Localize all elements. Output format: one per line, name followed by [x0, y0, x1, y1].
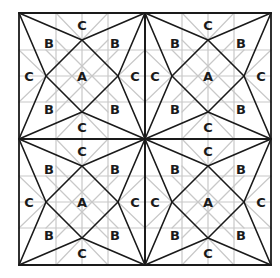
quilt-diagram: ABBBBCCCCABBBBCCCCABBBBCCCCABBBBCCCC	[0, 0, 280, 278]
piece-label-c: C	[203, 120, 213, 135]
piece-label-b: B	[170, 162, 180, 177]
piece-label-c: C	[77, 144, 87, 159]
piece-label-b: B	[110, 162, 120, 177]
piece-label-b: B	[236, 36, 246, 51]
piece-label-c: C	[24, 195, 34, 210]
piece-label-a: A	[77, 195, 87, 210]
piece-label-b: B	[236, 228, 246, 243]
piece-label-b: B	[236, 102, 246, 117]
piece-label-c: C	[77, 18, 87, 33]
piece-label-c: C	[256, 195, 266, 210]
piece-label-a: A	[77, 69, 87, 84]
piece-label-b: B	[110, 102, 120, 117]
piece-label-b: B	[110, 36, 120, 51]
piece-label-c: C	[77, 246, 87, 261]
piece-label-b: B	[170, 102, 180, 117]
piece-label-b: B	[110, 228, 120, 243]
piece-label-c: C	[150, 195, 160, 210]
piece-label-c: C	[203, 144, 213, 159]
piece-label-b: B	[170, 36, 180, 51]
piece-label-b: B	[44, 36, 54, 51]
piece-label-c: C	[256, 69, 266, 84]
piece-label-b: B	[236, 162, 246, 177]
piece-label-a: A	[203, 195, 213, 210]
piece-label-b: B	[44, 102, 54, 117]
piece-label-c: C	[77, 120, 87, 135]
piece-label-c: C	[130, 69, 140, 84]
piece-label-b: B	[44, 228, 54, 243]
piece-label-b: B	[44, 162, 54, 177]
piece-label-c: C	[24, 69, 34, 84]
piece-label-c: C	[203, 246, 213, 261]
piece-label-c: C	[150, 69, 160, 84]
piece-label-c: C	[203, 18, 213, 33]
piece-label-b: B	[170, 228, 180, 243]
piece-label-a: A	[203, 69, 213, 84]
piece-label-c: C	[130, 195, 140, 210]
